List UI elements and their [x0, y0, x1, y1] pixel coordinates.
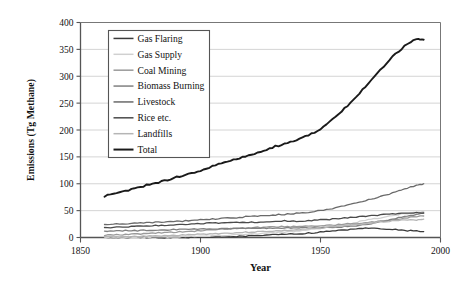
y-tick-label: 100 [59, 179, 74, 189]
y-tick-label: 300 [59, 72, 74, 82]
chart-figure: 4003503002502001501005001850190019502000… [0, 0, 462, 283]
x-tick-label: 1900 [191, 246, 210, 256]
y-tick-label: 50 [64, 206, 74, 216]
legend-label-rice-etc: Rice etc. [138, 112, 172, 123]
legend-label-total: Total [138, 144, 158, 155]
y-tick-label: 200 [59, 126, 74, 136]
x-tick-label: 1950 [311, 246, 330, 256]
y-tick-label: 250 [59, 99, 74, 109]
legend-label-landfills: Landfills [138, 128, 173, 139]
emissions-line-chart: 4003503002502001501005001850190019502000… [0, 0, 462, 283]
y-axis-title: Emissions (Tg Methane) [25, 79, 37, 181]
legend-label-coal-mining: Coal Mining [138, 65, 187, 76]
series-line-rice-etc [105, 212, 424, 228]
x-axis-title: Year [250, 262, 271, 273]
x-tick-label: 2000 [431, 246, 450, 256]
legend-label-biomass-burning: Biomass Burning [138, 80, 205, 91]
legend-label-gas-flaring: Gas Flaring [138, 33, 183, 44]
y-tick-label: 0 [69, 233, 74, 243]
y-tick-label: 150 [59, 152, 74, 162]
y-tick-label: 350 [59, 45, 74, 55]
legend-label-gas-supply: Gas Supply [138, 49, 183, 60]
legend: Gas FlaringGas SupplyCoal MiningBiomass … [109, 31, 210, 158]
x-tick-label: 1850 [71, 246, 90, 256]
legend-label-livestock: Livestock [138, 96, 176, 107]
y-tick-label: 400 [59, 18, 74, 28]
